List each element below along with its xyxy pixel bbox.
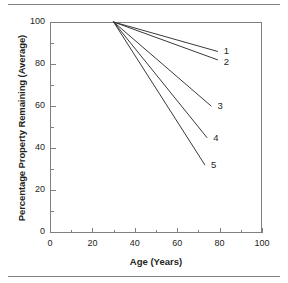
x-tick-label: 0 — [39, 238, 61, 248]
series-label-1: 1 — [224, 45, 229, 56]
y-tick-label: 0 — [23, 226, 45, 236]
y-tick-label: 60 — [23, 100, 45, 110]
series-line-3 — [114, 22, 212, 106]
x-tick-label: 80 — [209, 238, 231, 248]
x-axis-title: Age (Years) — [50, 256, 262, 267]
y-tick-label: 20 — [23, 184, 45, 194]
y-tick-label: 40 — [23, 142, 45, 152]
series-label-5: 5 — [211, 159, 216, 170]
figure-container: Percentage Property Remaining (Average) … — [0, 0, 288, 283]
x-tick-label: 60 — [166, 238, 188, 248]
y-tick-label: 80 — [23, 58, 45, 68]
series-label-2: 2 — [224, 56, 229, 67]
x-tick-label: 100 — [251, 238, 273, 248]
x-tick-label: 20 — [81, 238, 103, 248]
y-tick-label: 100 — [23, 16, 45, 26]
x-tick-label: 40 — [124, 238, 146, 248]
series-label-3: 3 — [217, 100, 222, 111]
series-label-4: 4 — [213, 132, 218, 143]
